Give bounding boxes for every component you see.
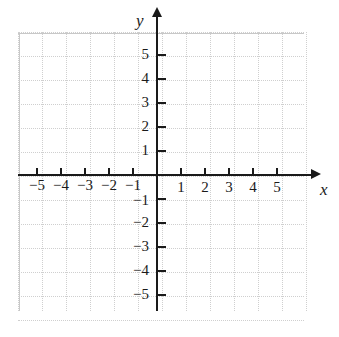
x-tick-label: 2 xyxy=(194,180,216,195)
x-tick-label: −3 xyxy=(74,178,96,193)
x-axis-line xyxy=(18,174,313,176)
x-axis-tick xyxy=(180,168,182,176)
x-tick-label: 3 xyxy=(218,180,240,195)
gridline-horizontal xyxy=(18,224,304,226)
gridline-horizontal xyxy=(18,152,304,154)
y-axis-line xyxy=(156,16,158,311)
y-axis-tick xyxy=(157,294,166,296)
y-axis-arrow-icon xyxy=(152,7,162,17)
x-axis-tick xyxy=(228,168,230,176)
y-tick-label: 3 xyxy=(123,95,149,110)
x-tick-label: 4 xyxy=(242,180,264,195)
x-tick-label: −5 xyxy=(26,178,48,193)
y-tick-label: −3 xyxy=(121,239,149,254)
y-tick-label: −4 xyxy=(121,263,149,278)
gridline-horizontal xyxy=(18,104,304,106)
x-axis-tick xyxy=(36,168,38,176)
y-tick-label: −5 xyxy=(121,287,149,302)
y-tick-label: 1 xyxy=(123,143,149,158)
x-axis-tick xyxy=(108,168,110,176)
x-axis-tick xyxy=(276,168,278,176)
x-axis-tick xyxy=(60,168,62,176)
y-axis-label: y xyxy=(136,12,144,29)
y-axis-tick xyxy=(157,54,166,56)
gridline-horizontal xyxy=(18,248,304,250)
gridline-horizontal xyxy=(18,128,304,130)
x-tick-label: −4 xyxy=(50,178,72,193)
y-axis-tick xyxy=(157,246,166,248)
y-axis-tick xyxy=(157,126,166,128)
gridline-horizontal xyxy=(18,200,304,202)
x-axis-tick xyxy=(252,168,254,176)
gridline-horizontal xyxy=(18,32,304,34)
y-tick-label: 5 xyxy=(123,47,149,62)
y-tick-label: −2 xyxy=(121,215,149,230)
x-axis-tick xyxy=(132,168,134,176)
y-tick-label: 2 xyxy=(123,119,149,134)
y-tick-label: −1 xyxy=(121,193,149,208)
y-axis-tick xyxy=(157,270,166,272)
y-axis-tick xyxy=(157,222,166,224)
gridline-horizontal xyxy=(18,80,304,82)
x-axis-label: x xyxy=(320,181,328,198)
gridline-vertical xyxy=(306,32,308,311)
y-tick-label: 4 xyxy=(123,71,149,86)
x-axis-arrow-icon xyxy=(311,169,321,179)
x-axis-tick xyxy=(204,168,206,176)
gridline-horizontal xyxy=(18,296,304,298)
y-axis-tick xyxy=(157,102,166,104)
gridline-horizontal xyxy=(18,272,304,274)
coordinate-plane: −5−4−3−2−11234554321−1−2−3−4−5 x y xyxy=(0,0,339,337)
x-tick-label: 5 xyxy=(266,180,288,195)
y-axis-tick xyxy=(157,78,166,80)
x-tick-label: −2 xyxy=(98,178,120,193)
x-tick-label: 1 xyxy=(170,180,192,195)
x-tick-label: −1 xyxy=(122,178,144,193)
y-axis-tick xyxy=(157,198,166,200)
x-axis-tick xyxy=(84,168,86,176)
gridline-horizontal xyxy=(18,56,304,58)
y-axis-tick xyxy=(157,150,166,152)
gridline-horizontal xyxy=(18,320,304,322)
